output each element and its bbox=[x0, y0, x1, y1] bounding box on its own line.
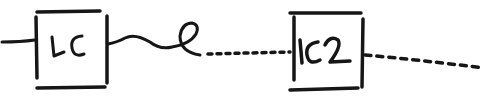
wave-loop-connector bbox=[108, 23, 200, 55]
lc-label-l bbox=[52, 37, 64, 56]
node-lc2 bbox=[290, 13, 363, 90]
dashed-output-line bbox=[365, 55, 484, 68]
lc2-label-2 bbox=[325, 38, 350, 62]
dotted-connector bbox=[208, 52, 290, 54]
input-line bbox=[2, 40, 35, 42]
node-lc bbox=[36, 11, 107, 88]
lc2-label-c bbox=[307, 42, 320, 62]
diagram-canvas bbox=[0, 0, 486, 109]
lc-label-c bbox=[72, 36, 84, 55]
lc2-label-l bbox=[300, 40, 302, 63]
